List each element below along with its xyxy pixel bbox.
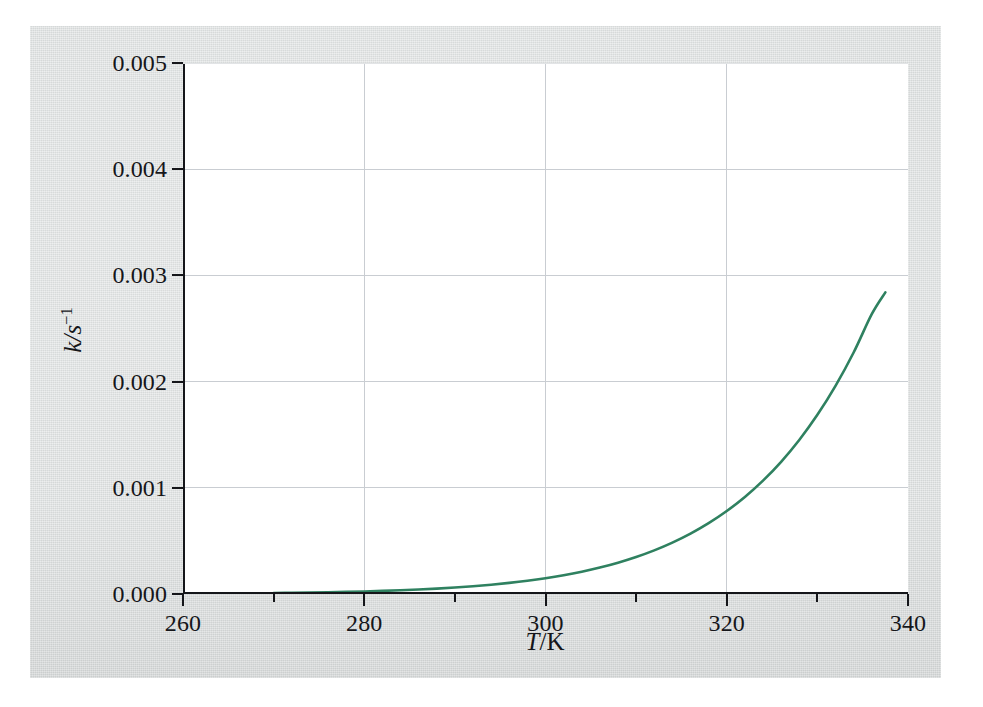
x-tick-label-0: 260: [165, 610, 201, 637]
y-tick-label-2: 0.002: [113, 368, 168, 395]
y-tick-major-1: [172, 487, 183, 489]
x-tick-major-1: [363, 594, 365, 606]
x-tick-major-2: [545, 594, 547, 606]
chart-figure: 0.0000.0010.0020.0030.0040.0052602803003…: [0, 0, 983, 707]
y-tick-major-2: [172, 381, 183, 383]
y-tick-label-4: 0.004: [113, 156, 168, 183]
y-tick-major-4: [172, 168, 183, 170]
x-tick-major-0: [182, 594, 184, 606]
x-tick-minor-0: [273, 594, 275, 602]
y-tick-label-1: 0.001: [113, 474, 168, 501]
y-tick-label-3: 0.003: [113, 262, 168, 289]
x-tick-major-3: [726, 594, 728, 606]
x-axis-unit: /K: [539, 628, 564, 655]
x-tick-label-1: 280: [346, 610, 382, 637]
x-tick-minor-2: [635, 594, 637, 602]
x-tick-label-3: 320: [709, 610, 745, 637]
x-tick-major-4: [907, 594, 909, 606]
x-tick-label-4: 340: [890, 610, 926, 637]
y-axis-title: k/s−1: [57, 307, 87, 352]
y-axis-exponent: −1: [57, 307, 76, 325]
y-tick-major-3: [172, 274, 183, 276]
series-line-rate-constant: [274, 292, 886, 593]
y-tick-label-5: 0.005: [113, 50, 168, 77]
plot-svg: [183, 63, 908, 594]
y-tick-label-0: 0.000: [113, 581, 168, 608]
x-axis-title: T/K: [526, 628, 565, 656]
x-tick-minor-1: [454, 594, 456, 602]
x-tick-minor-3: [816, 594, 818, 602]
y-tick-major-5: [172, 62, 183, 64]
y-axis-variable: k: [59, 342, 86, 353]
x-axis-variable: T: [526, 628, 540, 655]
y-axis-unit: /s: [59, 325, 86, 342]
plot-area: [183, 63, 908, 594]
